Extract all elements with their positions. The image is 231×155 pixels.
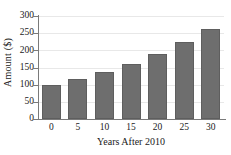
bar xyxy=(201,29,220,119)
gridline xyxy=(38,16,224,17)
x-tick-label: 5 xyxy=(65,122,91,133)
plot-area xyxy=(38,16,224,119)
x-axis-tick-labels: 051015202530 xyxy=(38,122,224,136)
y-axis-line xyxy=(38,15,39,120)
y-tick-mark xyxy=(33,85,38,86)
x-tick-label: 0 xyxy=(38,122,64,133)
y-axis-title-label: Amount ($) xyxy=(2,38,13,87)
bar-chart: Amount ($) 050100150200250300 0510152025… xyxy=(0,0,231,155)
y-tick-mark xyxy=(33,33,38,34)
y-tick-mark xyxy=(33,119,38,120)
gridline xyxy=(38,50,224,51)
bar xyxy=(122,64,141,119)
x-tick-label: 30 xyxy=(198,122,224,133)
y-tick-mark xyxy=(33,16,38,17)
bar xyxy=(42,85,61,119)
bar xyxy=(95,72,114,119)
bar xyxy=(175,42,194,119)
x-tick-label: 25 xyxy=(171,122,197,133)
y-tick-label: 200 xyxy=(20,46,34,56)
x-axis-line xyxy=(38,119,226,120)
y-tick-mark xyxy=(33,102,38,103)
y-tick-label: 250 xyxy=(20,28,34,38)
bar xyxy=(148,54,167,119)
y-tick-mark xyxy=(33,68,38,69)
y-tick-label: 150 xyxy=(20,63,34,73)
y-tick-label: 100 xyxy=(20,80,34,90)
x-tick-label: 10 xyxy=(91,122,117,133)
y-tick-label: 300 xyxy=(20,11,34,21)
bar xyxy=(68,79,87,119)
y-tick-mark xyxy=(33,50,38,51)
x-axis-title: Years After 2010 xyxy=(38,136,224,148)
gridline xyxy=(38,33,224,34)
x-tick-label: 15 xyxy=(118,122,144,133)
x-tick-label: 20 xyxy=(145,122,171,133)
